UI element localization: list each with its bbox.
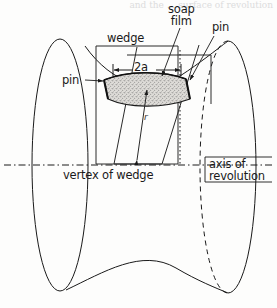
label-pin-right: pin xyxy=(212,22,229,34)
soap-film-surface xyxy=(104,73,190,106)
label-half-width-2a: 2a xyxy=(134,62,148,74)
leader-soap-film xyxy=(162,28,180,76)
label-radius-r: r xyxy=(144,113,148,122)
label-axis-line2: revolution xyxy=(209,169,265,183)
label-soap-film-line2: film xyxy=(171,14,192,28)
leader-pin-right xyxy=(190,36,214,80)
bottom-profile-curve xyxy=(66,260,228,293)
leader-pin-left xyxy=(85,80,103,81)
label-axis-of-revolution: axis ofrevolution xyxy=(209,158,265,182)
diagram-canvas xyxy=(0,0,277,308)
label-pin-left: pin xyxy=(62,75,79,87)
soap-film-patch xyxy=(104,73,190,106)
label-wedge: wedge xyxy=(107,33,144,45)
label-vertex-of-wedge: vertex of wedge xyxy=(63,170,153,182)
soap-film-wedge-figure: and the ... surface of revolution xyxy=(0,0,277,308)
label-soap-film: soapfilm xyxy=(168,4,195,27)
